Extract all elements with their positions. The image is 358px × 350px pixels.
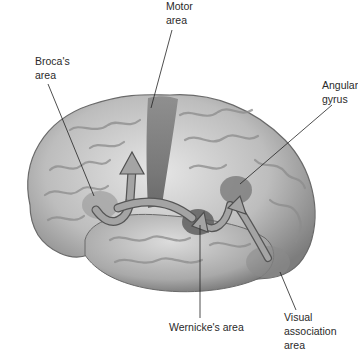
label-wernickes-area: Wernicke's area [169,320,244,334]
label-brocas-area: Broca's area [35,54,70,82]
leader-visual [280,272,296,310]
label-motor-area: Motor area [166,0,193,27]
label-angular-gyrus: Angular gyrus [322,78,358,106]
label-visual-association-area: Visual association area [284,310,337,350]
